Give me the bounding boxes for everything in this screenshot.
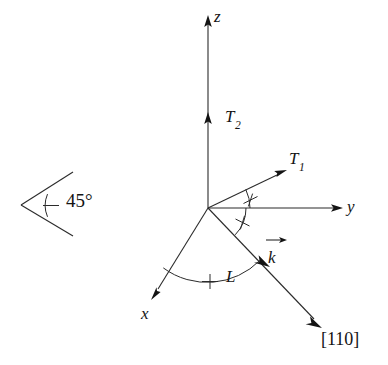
T2-vector-label: T2 bbox=[225, 108, 240, 129]
x-axis-label: x bbox=[141, 305, 149, 322]
figure-canvas: z T2 T1 y x k L [110] 45° bbox=[0, 0, 388, 365]
arc-y-to-110-tick-cross bbox=[240, 216, 244, 230]
x-axis-arrowhead bbox=[151, 287, 161, 300]
arc-x-to-110-group bbox=[163, 260, 260, 289]
T1-arrowhead bbox=[274, 170, 287, 177]
T1-label-subscript: 1 bbox=[299, 161, 305, 174]
diagram-svg bbox=[0, 0, 388, 365]
k-vector-label: k bbox=[268, 249, 276, 266]
angle-legend-label: 45° bbox=[66, 191, 93, 210]
T1-vector-label: T1 bbox=[289, 150, 304, 171]
k-vector-overarrow-group bbox=[266, 237, 287, 243]
x-axis-line bbox=[158, 208, 208, 289]
miller-index-label: [110] bbox=[321, 330, 359, 348]
arc-y-to-T1 bbox=[246, 190, 250, 209]
L-length-label: L bbox=[226, 268, 235, 285]
T1-vector-line bbox=[208, 175, 277, 208]
z-axis-label: z bbox=[214, 8, 221, 25]
T1-vector-group bbox=[208, 170, 287, 208]
x-axis-group bbox=[151, 208, 208, 300]
T1-label-base: T bbox=[289, 149, 298, 168]
y-axis-label: y bbox=[347, 198, 355, 215]
y-axis-group bbox=[208, 204, 343, 212]
arc-x-to-110 bbox=[163, 260, 260, 282]
arc-y-to-110-group bbox=[235, 208, 249, 235]
z-axis-group bbox=[204, 15, 212, 208]
arc-y-to-T1-group bbox=[244, 190, 258, 209]
T2-label-subscript: 2 bbox=[235, 119, 241, 132]
T2-label-base: T bbox=[225, 107, 234, 126]
